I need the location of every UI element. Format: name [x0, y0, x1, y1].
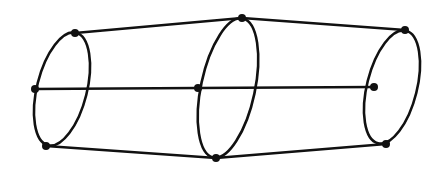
edge-M-mid-R-mid — [198, 87, 374, 88]
edge-L-bot-M-bot — [46, 146, 216, 158]
vertex-M-top — [238, 14, 246, 22]
vertex-M-mid — [194, 84, 202, 92]
cylinder-graph-diagram — [0, 0, 447, 174]
vertex-L-mid — [31, 85, 39, 93]
ellipse-right — [354, 25, 431, 150]
vertex-R-mid — [370, 83, 378, 91]
vertex-M-bot — [212, 154, 220, 162]
vertex-L-top — [71, 29, 79, 37]
vertex-L-bot — [42, 142, 50, 150]
edge-M-bot-R-bot — [216, 144, 386, 158]
edges — [35, 18, 405, 158]
vertex-R-top — [401, 26, 409, 34]
vertex-R-bot — [382, 140, 390, 148]
edge-L-mid-M-mid — [35, 88, 198, 89]
edge-L-top-M-top — [75, 18, 242, 33]
edge-M-top-R-top — [242, 18, 405, 30]
